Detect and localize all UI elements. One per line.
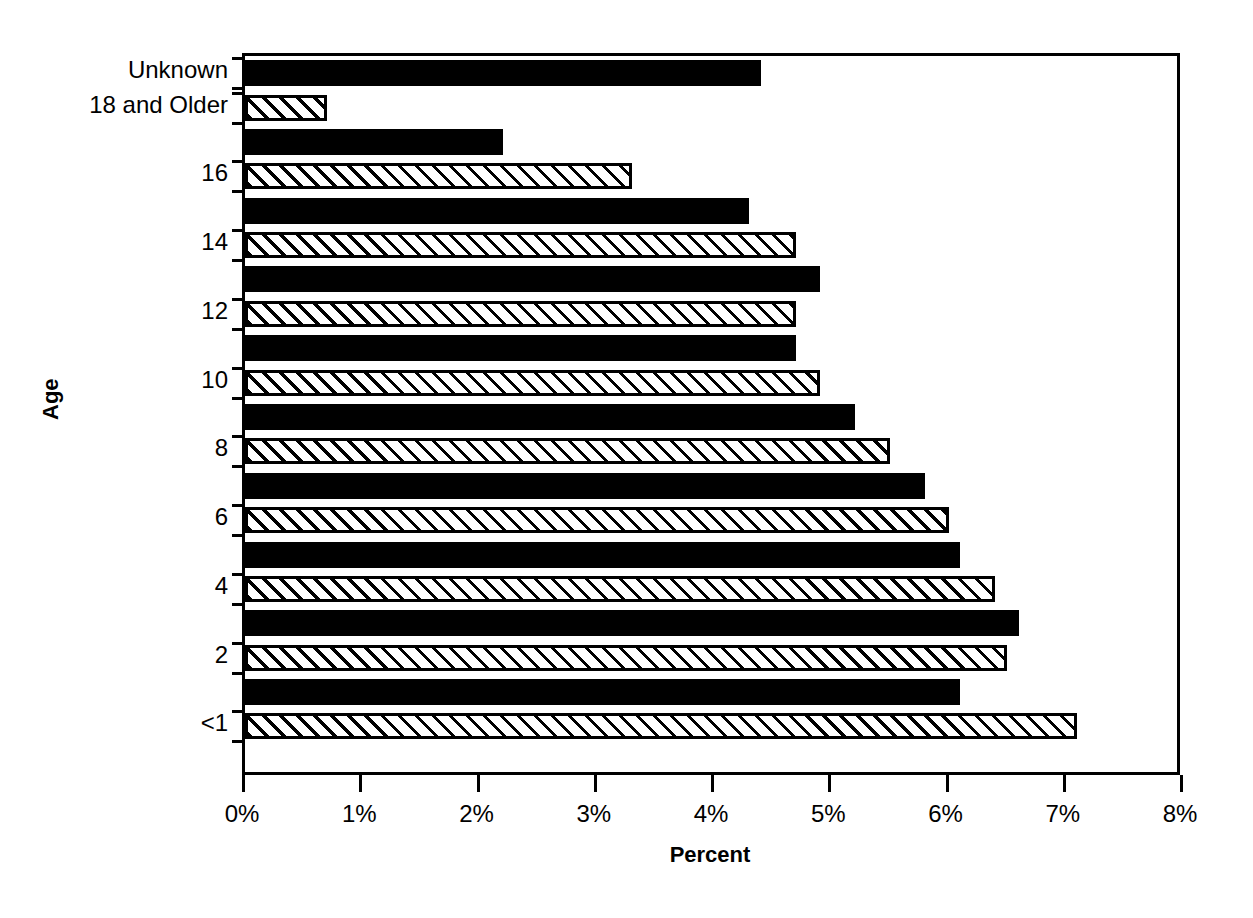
- y-axis-tick-label: 4: [215, 574, 228, 598]
- y-axis-tick: [232, 122, 245, 125]
- x-axis-tick-label: 3%: [576, 801, 611, 827]
- bar-row: [245, 232, 1177, 258]
- y-axis-tick: [232, 672, 245, 675]
- y-axis-tick: [232, 190, 245, 193]
- bar-13: [245, 266, 820, 292]
- y-axis-tick-label: 14: [201, 230, 228, 254]
- x-axis-tick: [359, 775, 362, 792]
- x-axis-tick: [477, 775, 480, 792]
- y-axis-tick: [232, 465, 245, 468]
- x-axis-tick-label: 2%: [459, 801, 494, 827]
- y-axis-tick: [232, 229, 245, 232]
- y-axis-tick-label: 10: [201, 368, 228, 392]
- x-axis-tick: [946, 775, 949, 792]
- y-axis-labels: Unknown18 and Older161412108642<1: [0, 53, 228, 775]
- y-axis-tick: [232, 259, 245, 262]
- bar-row: [245, 542, 1177, 568]
- y-axis-tick: [232, 87, 245, 90]
- y-axis-tick-label: 2: [215, 643, 228, 667]
- bar-3: [245, 610, 1019, 636]
- y-axis-tick: [232, 160, 245, 163]
- bar-10: [245, 370, 820, 396]
- x-axis: 0%1%2%3%4%5%6%7%8%: [242, 775, 1180, 895]
- y-axis-tick: [232, 435, 245, 438]
- x-axis-tick-label: 7%: [1045, 801, 1080, 827]
- x-axis-tick-label: 6%: [928, 801, 963, 827]
- bar-row: [245, 95, 1177, 121]
- y-axis-tick: [232, 573, 245, 576]
- bar-11: [245, 335, 796, 361]
- y-axis-tick: [232, 603, 245, 606]
- y-axis-tick: [232, 740, 245, 743]
- bar-row: [245, 404, 1177, 430]
- bar-row: [245, 198, 1177, 224]
- x-axis-tick: [828, 775, 831, 792]
- bar--1: [245, 713, 1077, 739]
- bar-row: [245, 610, 1177, 636]
- bar-row: [245, 370, 1177, 396]
- bar-14: [245, 232, 796, 258]
- bar-row: [245, 129, 1177, 155]
- bar-row: [245, 163, 1177, 189]
- bar-row: [245, 335, 1177, 361]
- x-axis-tick: [1180, 775, 1183, 792]
- bar-15: [245, 198, 749, 224]
- x-axis-tick-label: 5%: [811, 801, 846, 827]
- y-axis-tick: [232, 504, 245, 507]
- bar-row: [245, 301, 1177, 327]
- y-axis-tick: [232, 642, 245, 645]
- y-axis-tick-label: 18 and Older: [89, 93, 228, 117]
- x-axis-title: Percent: [670, 842, 751, 868]
- y-axis-tick: [232, 534, 245, 537]
- bar-row: [245, 473, 1177, 499]
- bar-row: [245, 713, 1177, 739]
- bar-row: [245, 507, 1177, 533]
- bar-17: [245, 129, 503, 155]
- bar-row: [245, 679, 1177, 705]
- x-axis-tick-label: 0%: [225, 801, 260, 827]
- bar-row: [245, 60, 1177, 86]
- y-axis-tick: [232, 397, 245, 400]
- y-axis-tick-label: 12: [201, 299, 228, 323]
- bar-7: [245, 473, 925, 499]
- bar-6: [245, 507, 949, 533]
- bar-18-and-older: [245, 95, 327, 121]
- bar-row: [245, 438, 1177, 464]
- bar-row: [245, 576, 1177, 602]
- bar-12: [245, 301, 796, 327]
- bar-unknown: [245, 60, 761, 86]
- x-axis-tick-label: 1%: [342, 801, 377, 827]
- y-axis-tick-label: <1: [201, 711, 228, 735]
- y-axis-tick: [232, 710, 245, 713]
- x-axis-tick: [1063, 775, 1066, 792]
- bar-16: [245, 163, 632, 189]
- y-axis-tick: [232, 328, 245, 331]
- x-axis-tick-label: 8%: [1163, 801, 1198, 827]
- bar-row: [245, 266, 1177, 292]
- y-axis-tick: [232, 57, 245, 60]
- y-axis-tick-label: 8: [215, 436, 228, 460]
- x-axis-tick: [594, 775, 597, 792]
- bar-row: [245, 645, 1177, 671]
- bar-2: [245, 645, 1007, 671]
- bar-5: [245, 542, 960, 568]
- y-axis-tick-label: 16: [201, 161, 228, 185]
- y-axis-tick: [232, 298, 245, 301]
- bar-chart: Age Unknown18 and Older161412108642<1 0%…: [0, 0, 1253, 918]
- x-axis-tick: [242, 775, 245, 792]
- x-axis-tick: [711, 775, 714, 792]
- y-axis-tick-label: 6: [215, 505, 228, 529]
- bar-9: [245, 404, 855, 430]
- y-axis-tick-label: Unknown: [128, 58, 228, 82]
- bar-8: [245, 438, 890, 464]
- bar-4: [245, 576, 995, 602]
- bars-layer: [245, 56, 1177, 772]
- y-axis-tick: [232, 367, 245, 370]
- x-axis-tick-label: 4%: [694, 801, 729, 827]
- bar-1: [245, 679, 960, 705]
- plot-area: [242, 53, 1180, 775]
- y-axis-tick: [232, 92, 245, 95]
